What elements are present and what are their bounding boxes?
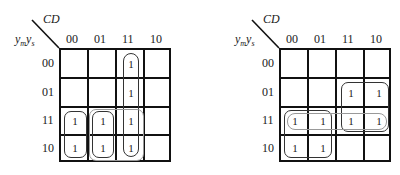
row-header: 01: [42, 86, 54, 98]
column-header: 10: [370, 33, 382, 45]
kmap-grid: 1 1 1 1 1 1 1 1: [59, 48, 171, 162]
kmap-right: CD ymys 00 01 11 10 00 01 11 10 1 1 1 1 …: [200, 0, 400, 175]
column-header: 00: [286, 33, 298, 45]
group-loop: [64, 111, 87, 158]
row-variable-label: ymys: [15, 33, 35, 50]
row-header: 10: [262, 142, 274, 154]
row-header: 11: [42, 114, 54, 126]
column-header: 01: [314, 33, 326, 45]
group-loop: [89, 109, 144, 161]
column-variable-label: CD: [263, 13, 280, 25]
group-loop: [287, 113, 387, 130]
row-header: 01: [262, 86, 274, 98]
column-header: 01: [94, 33, 106, 45]
row-header: 11: [262, 114, 274, 126]
kmap-grid: 1 1 1 1 1 1 1 1: [279, 48, 391, 162]
kmap-left: CD ymys 00 01 11 10 00 01 11 10 1 1 1 1 …: [0, 0, 200, 175]
row-header: 00: [262, 57, 274, 69]
column-header: 11: [122, 33, 134, 45]
row-header: 10: [42, 142, 54, 154]
row-header: 00: [42, 57, 54, 69]
column-header: 00: [66, 33, 78, 45]
row-variable-label: ymys: [235, 33, 255, 50]
column-header: 10: [150, 33, 162, 45]
column-variable-label: CD: [43, 13, 60, 25]
column-header: 11: [342, 33, 354, 45]
